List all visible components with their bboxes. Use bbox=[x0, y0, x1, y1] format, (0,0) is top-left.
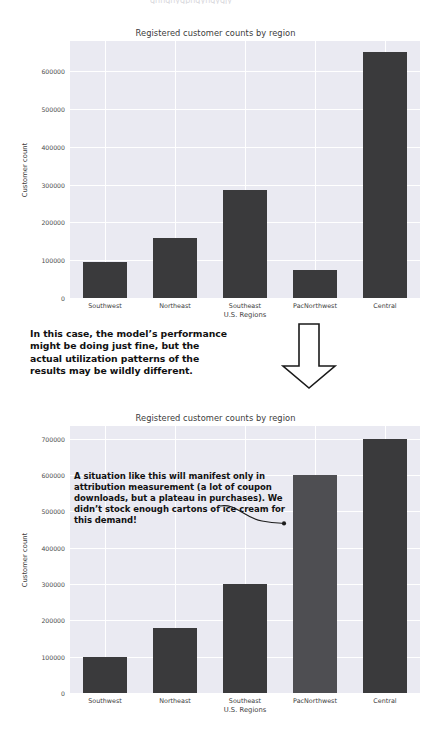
chart-bottom-title: Registered customer counts by region bbox=[0, 413, 431, 423]
chart-bar bbox=[363, 439, 406, 693]
chart-bar bbox=[83, 657, 126, 693]
chart-y-tick-label: 600000 bbox=[0, 68, 65, 75]
chart-x-tick-label: Central bbox=[350, 302, 420, 310]
chart-y-tick-label: 400000 bbox=[0, 544, 65, 551]
chart-top-plot-area bbox=[70, 41, 420, 298]
chart-bar bbox=[153, 628, 196, 693]
chart-y-tick-label: 200000 bbox=[0, 617, 65, 624]
chart-y-tick-label: 400000 bbox=[0, 143, 65, 150]
chart-y-tick-label: 500000 bbox=[0, 106, 65, 113]
chart-x-tick-label: Northeast bbox=[140, 697, 210, 705]
chart-vertical-gridline bbox=[105, 426, 106, 693]
chart-x-tick-label: Southeast bbox=[210, 697, 280, 705]
chart-y-tick-label: 0 bbox=[0, 295, 65, 302]
chart-y-tick-label: 500000 bbox=[0, 508, 65, 515]
chart-y-tick-label: 100000 bbox=[0, 257, 65, 264]
chart-bar bbox=[293, 475, 336, 693]
chart-top-x-axis-label: U.S. Regions bbox=[70, 311, 420, 319]
chart-x-tick-label: Central bbox=[350, 697, 420, 705]
chart-vertical-gridline bbox=[315, 41, 316, 298]
chart-x-tick-label: PacNorthwest bbox=[280, 302, 350, 310]
chart-bar bbox=[223, 584, 266, 693]
chart-top-title: Registered customer counts by region bbox=[0, 28, 431, 38]
chart-bar bbox=[363, 52, 406, 298]
chart-y-tick-label: 600000 bbox=[0, 472, 65, 479]
chart-bottom-plot-area bbox=[70, 426, 420, 693]
chart-y-tick-label: 700000 bbox=[0, 435, 65, 442]
chart-x-tick-label: Southwest bbox=[70, 302, 140, 310]
chart-bottom-x-axis-label: U.S. Regions bbox=[70, 706, 420, 714]
chart-x-tick-label: Southeast bbox=[210, 302, 280, 310]
chart-y-tick-label: 300000 bbox=[0, 181, 65, 188]
chart-y-tick-label: 100000 bbox=[0, 653, 65, 660]
chart-bar bbox=[83, 262, 126, 298]
chart-vertical-gridline bbox=[105, 41, 106, 298]
chart-x-tick-label: PacNorthwest bbox=[280, 697, 350, 705]
middle-annotation-text: In this case, the model’s performance mi… bbox=[30, 328, 230, 377]
chart-y-tick-label: 200000 bbox=[0, 219, 65, 226]
down-arrow-icon bbox=[278, 322, 340, 394]
chart-x-tick-label: Northeast bbox=[140, 302, 210, 310]
chart-bar bbox=[223, 190, 266, 298]
chart-bar bbox=[153, 238, 196, 298]
chart-y-tick-label: 0 bbox=[0, 690, 65, 697]
page-top-partial-text: ghhghygphgyhgygjy bbox=[150, 0, 420, 4]
chart-x-tick-label: Southwest bbox=[70, 697, 140, 705]
curved-arrow-icon bbox=[218, 502, 293, 534]
chart-bar bbox=[293, 270, 336, 298]
chart-y-tick-label: 300000 bbox=[0, 581, 65, 588]
